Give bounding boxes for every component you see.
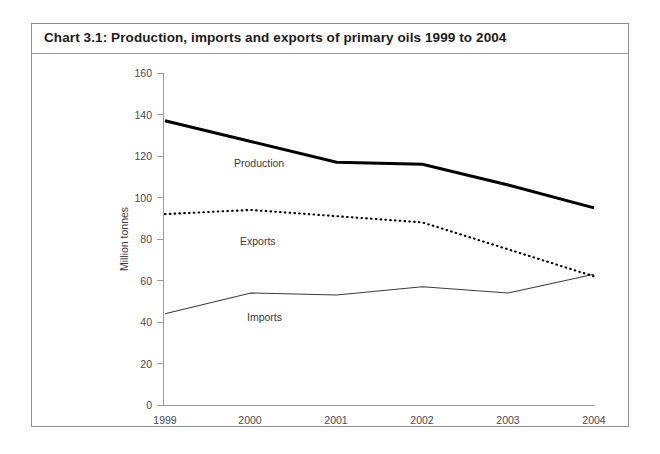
- series-line-imports: [165, 274, 594, 313]
- y-tick-label: 20: [140, 358, 152, 370]
- y-axis-title: Million tonnes: [118, 207, 130, 271]
- y-tick-label: 40: [140, 316, 152, 328]
- y-tick-label: 160: [134, 67, 152, 79]
- series-line-exports: [165, 210, 594, 276]
- y-axis-tick-labels: 160 140 120 100 80 60 40 20 0: [134, 67, 152, 411]
- chart-title-band: Chart 3.1: Production, imports and expor…: [32, 24, 628, 54]
- x-tick-label: 1999: [153, 414, 177, 426]
- line-chart-svg: 160 140 120 100 80 60 40 20 0 Million to…: [32, 54, 628, 426]
- y-tick-label: 120: [134, 150, 152, 162]
- y-tick-label: 0: [146, 399, 152, 411]
- series-label-production: Production: [234, 157, 284, 169]
- x-tick-label: 2000: [238, 414, 262, 426]
- chart-frame: Chart 3.1: Production, imports and expor…: [31, 23, 629, 427]
- x-tick-label: 2004: [582, 414, 606, 426]
- y-axis-ticks: [157, 73, 163, 405]
- x-tick-label: 2001: [324, 414, 348, 426]
- y-tick-label: 80: [140, 233, 152, 245]
- screenshot-root: Chart 3.1: Production, imports and expor…: [0, 0, 660, 454]
- series-line-production: [165, 121, 594, 208]
- chart-title: Chart 3.1: Production, imports and expor…: [44, 30, 506, 45]
- plot-area: 160 140 120 100 80 60 40 20 0 Million to…: [32, 54, 628, 426]
- x-axis-tick-labels: 1999 2000 2001 2002 2003 2004: [153, 414, 606, 426]
- y-tick-label: 140: [134, 109, 152, 121]
- x-tick-label: 2003: [496, 414, 520, 426]
- series-label-exports: Exports: [240, 235, 276, 247]
- series-label-imports: Imports: [247, 311, 282, 323]
- x-tick-label: 2002: [410, 414, 434, 426]
- y-tick-label: 60: [140, 275, 152, 287]
- y-tick-label: 100: [134, 192, 152, 204]
